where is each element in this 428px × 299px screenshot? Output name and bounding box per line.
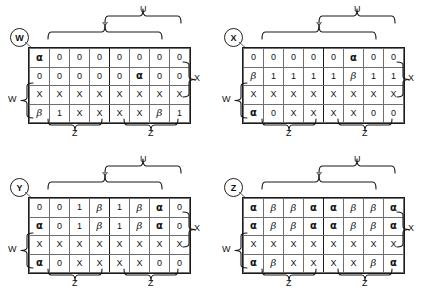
kmap-cell: X xyxy=(324,86,344,105)
kmap-cell: β xyxy=(130,217,150,236)
kmap-cell: X xyxy=(130,86,150,105)
kmap-cell: 0 xyxy=(50,199,70,218)
kmap-cell: α xyxy=(304,217,324,236)
kmap-cell: 0 xyxy=(50,217,70,236)
kmap-cell: α xyxy=(324,217,344,236)
brace-x xyxy=(183,62,189,97)
kmap-cell: X xyxy=(70,86,90,105)
kmap-cell: β xyxy=(344,217,364,236)
kmap-cell: β xyxy=(284,199,304,218)
kmap-cell: X xyxy=(244,236,264,255)
kmap-cell: X xyxy=(30,86,50,105)
kmap-row: 001β1βα0 xyxy=(30,199,190,218)
kmap-cell: 0 xyxy=(90,49,110,68)
kmap-cell: α xyxy=(324,199,344,218)
kmap-cell: 1 xyxy=(70,217,90,236)
brace-u xyxy=(319,16,395,23)
brace-x xyxy=(397,62,403,97)
brace-w xyxy=(235,233,241,268)
kmap-cell: X xyxy=(364,236,384,255)
kmap-cell: 0 xyxy=(364,49,384,68)
brace-label-x: X xyxy=(408,73,414,83)
kmap-cell: β xyxy=(344,199,364,218)
brace-label-z-right: Z xyxy=(148,278,154,288)
brace-w xyxy=(235,83,241,118)
brace-label-x: X xyxy=(194,73,200,83)
brace-w xyxy=(21,83,27,118)
kmap-cell: X xyxy=(304,236,324,255)
kmap-cell: α xyxy=(30,49,50,68)
kmap-cell: 0 xyxy=(30,199,50,218)
kmap-row: α01β1βα0 xyxy=(30,217,190,236)
brace-x xyxy=(397,212,403,247)
kmap-cell: 1 xyxy=(110,217,130,236)
brace-u xyxy=(319,166,395,173)
kmap-cell: α xyxy=(130,67,150,86)
kmap-cell: X xyxy=(50,236,70,255)
kmap-cell: α xyxy=(244,199,264,218)
brace-label-u: U xyxy=(354,154,361,164)
kmap-cell: β xyxy=(30,104,50,123)
kmap-cell: X xyxy=(30,236,50,255)
kmap-table-w: α000000000000α00XXXXXXXXβ1XXXXβ1 xyxy=(29,48,190,123)
kmap-cell: X xyxy=(130,236,150,255)
kmap-row: αββααββα xyxy=(244,199,404,218)
brace-u xyxy=(105,166,181,173)
kmap-cell: β xyxy=(130,199,150,218)
brace-label-u: U xyxy=(140,4,147,14)
brace-z-left xyxy=(262,119,316,125)
kmap-cell: 1 xyxy=(304,67,324,86)
kmap-cell: 0 xyxy=(304,49,324,68)
kmap-cell: X xyxy=(284,236,304,255)
brace-x xyxy=(183,212,189,247)
kmap-table-x: 00000α00β1111β11XXXXXXXXα0XXXX00 xyxy=(243,48,404,123)
brace-z-right xyxy=(124,119,178,125)
kmap-cell: 0 xyxy=(130,49,150,68)
brace-z-left xyxy=(262,269,316,275)
kmap-row: XXXXXXXX xyxy=(244,236,404,255)
kmap-cell: 0 xyxy=(150,49,170,68)
kmap-panel-y: Y001β1βα0α01β1βα0XXXXXXXXα0XXXX00UYZZWX xyxy=(0,150,214,299)
kmap-cell: 0 xyxy=(264,49,284,68)
brace-label-x: X xyxy=(194,223,200,233)
kmap-row: XXXXXXXX xyxy=(30,86,190,105)
brace-label-z-left: Z xyxy=(72,278,78,288)
kmap-cell: X xyxy=(50,86,70,105)
kmap-row: XXXXXXXX xyxy=(244,86,404,105)
kmap-panel-x: X00000α00β1111β11XXXXXXXXα0XXXX00UYZZWX xyxy=(214,0,428,149)
brace-label-y: Y xyxy=(102,20,108,30)
brace-label-z-left: Z xyxy=(286,128,292,138)
brace-y xyxy=(48,32,162,39)
brace-z-right xyxy=(338,269,392,275)
brace-label-x: X xyxy=(408,223,414,233)
brace-label-z-left: Z xyxy=(72,128,78,138)
kmap-cell: β xyxy=(90,199,110,218)
kmap-cell: α xyxy=(304,199,324,218)
kmap-cell: 0 xyxy=(284,49,304,68)
kmap-cell: X xyxy=(70,236,90,255)
kmap-cell: α xyxy=(244,104,264,123)
kmap-cell: 0 xyxy=(90,67,110,86)
brace-w xyxy=(21,233,27,268)
kmap-cell: X xyxy=(344,236,364,255)
kmap-cell: 1 xyxy=(264,67,284,86)
kmap-figure: Wα000000000000α00XXXXXXXXβ1XXXXβ1UYZZWXX… xyxy=(0,0,428,299)
kmap-row: 00000α00 xyxy=(244,49,404,68)
kmap-cell: β xyxy=(364,217,384,236)
kmap-cell: 1 xyxy=(284,67,304,86)
kmap-cell: X xyxy=(304,86,324,105)
kmap-row: XXXXXXXX xyxy=(30,236,190,255)
brace-label-u: U xyxy=(354,4,361,14)
kmap-cell: X xyxy=(150,236,170,255)
brace-label-z-right: Z xyxy=(362,278,368,288)
kmap-cell: X xyxy=(110,86,130,105)
kmap-cell: α xyxy=(344,49,364,68)
kmap-cell: 0 xyxy=(110,49,130,68)
kmap-cell: 0 xyxy=(244,49,264,68)
brace-label-y: Y xyxy=(316,20,322,30)
brace-z-right xyxy=(124,269,178,275)
kmap-cell: X xyxy=(324,236,344,255)
brace-z-left xyxy=(48,119,102,125)
kmap-cell: 1 xyxy=(324,67,344,86)
brace-y xyxy=(48,182,162,189)
